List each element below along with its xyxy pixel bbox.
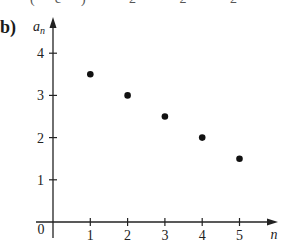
axes xyxy=(36,17,278,238)
data-point xyxy=(236,155,243,162)
y-tick-label: 4 xyxy=(37,46,44,61)
origin-label: 0 xyxy=(38,222,45,237)
y-axis-arrow-icon xyxy=(50,17,57,28)
y-tick-label: 1 xyxy=(37,173,44,188)
x-tick-label: 5 xyxy=(236,228,243,243)
x-axis-arrow-icon xyxy=(267,219,278,226)
x-axis-label: n xyxy=(271,227,278,242)
data-point xyxy=(199,134,206,141)
data-point xyxy=(124,92,131,99)
y-axis-label: an xyxy=(33,19,45,36)
y-tick-label: 3 xyxy=(37,88,44,103)
data-points xyxy=(87,71,243,162)
ticks: 1234512340 xyxy=(37,46,243,243)
y-tick-label: 2 xyxy=(37,131,44,146)
data-point xyxy=(162,113,169,120)
x-tick-label: 1 xyxy=(87,228,94,243)
scatter-plot: 1234512340 ann xyxy=(0,0,287,246)
axis-labels: ann xyxy=(33,19,278,242)
data-point xyxy=(87,71,94,78)
x-tick-label: 2 xyxy=(124,228,131,243)
x-tick-label: 3 xyxy=(161,228,168,243)
x-tick-label: 4 xyxy=(199,228,206,243)
